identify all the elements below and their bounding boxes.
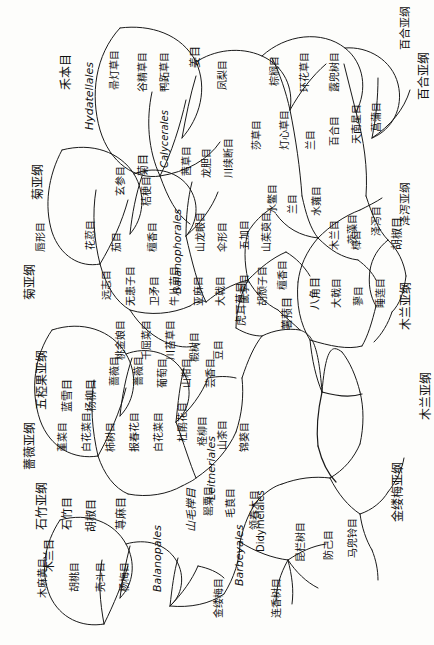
order-label-jiangmu: 姜目 xyxy=(190,46,201,68)
order-label-gujingcao: 谷精草目 xyxy=(138,52,148,92)
order-label-zhudengcao: 帚灯草目 xyxy=(110,50,120,90)
order-label-dujuanhua: 白花菜目 xyxy=(154,412,164,452)
order-label-hujiao2: 蓼目 xyxy=(354,286,364,306)
order-label-shuyu-yagang: 薯蓣目 xyxy=(282,297,293,330)
order-label-keidou: 杨梅目 xyxy=(120,562,130,592)
order-label-changpu: 菖蒲目 xyxy=(372,102,382,132)
order-label-doumu: 薔薇目 xyxy=(134,356,144,386)
order-label-yazhicao: 鸭跖草目 xyxy=(160,52,170,92)
order-label-shishu: 杜鹃花目 xyxy=(178,402,188,442)
order-label-qianqucai: 千屈菜目 xyxy=(142,320,152,360)
order-label-wuhuanzi: 无患子目 xyxy=(126,266,136,306)
order-label-hebenmu: 禾本目 xyxy=(60,54,72,90)
order-label-calycerales: Calycerales xyxy=(160,110,170,168)
order-label-dajimu: 大戟目 xyxy=(216,276,226,306)
order-label-taojinniang: 桃金娘目 xyxy=(116,320,126,360)
subclass-label-qiangwei-left: 薔薇亚纲 xyxy=(24,422,36,470)
order-label-bajiao: 樟目 xyxy=(352,230,362,250)
order-label-shizhumu: 胡椒目 xyxy=(86,499,97,532)
tree-branch-lines xyxy=(0,0,434,645)
order-label-duanshu: 杨柳目 xyxy=(86,379,97,412)
order-label-tanxiang2: 芸香目 xyxy=(206,358,216,388)
order-label-yama: 亚麻目 xyxy=(194,276,204,306)
order-label-yangmei: 胡桃目 xyxy=(70,562,80,592)
order-label-chuanxuduan: 川续断目 xyxy=(224,138,234,178)
order-label-mulanmu: 胡椒目 xyxy=(392,217,403,250)
order-label-hutuizi: 胡颓子目 xyxy=(258,266,268,306)
order-label-shuibie: 水鳖目 xyxy=(268,184,278,214)
order-label-lianxiangshu: 金缕梅目 xyxy=(214,578,224,618)
order-label-fangji: 罂粟目 xyxy=(204,486,214,516)
order-label-putaomu: 水蕹目 xyxy=(312,186,322,216)
order-label-chunxing: 唇形目 xyxy=(36,222,46,252)
order-label-huerчао: 虎耳草目 xyxy=(236,282,247,326)
order-label-tiannanxing: 天南星目 xyxy=(352,104,362,144)
order-label-shanlongyan: 山龙眼目 xyxy=(196,212,206,252)
order-label-xuanshen: 玄参目 xyxy=(116,166,126,196)
order-label-qiangwei: 豆目 xyxy=(214,340,224,360)
order-label-hutao: 荨麻目 xyxy=(116,497,127,530)
order-label-shuilian: 木兰目 xyxy=(330,220,340,250)
phylogenetic-tree-diagram: 禾本目 Hydatellales 帚灯草目 谷精草目 鸭跖草目 姜目 凤梨目 棕… xyxy=(0,0,434,645)
order-label-huerchu: 檀香目 xyxy=(278,260,288,290)
subclass-label-jinlumei: 金缕梅亚纲 xyxy=(392,462,404,522)
order-label-weimao: 卫矛目 xyxy=(150,276,160,306)
order-label-jiegeng: 桔梗目 xyxy=(142,176,152,206)
order-label-baochunhua: 柿树目 xyxy=(106,422,116,452)
order-label-shanka: 葡萄目 xyxy=(158,358,168,388)
order-label-yingsu: 毛茛目 xyxy=(226,488,236,518)
order-label-madouling: 防己目 xyxy=(324,530,334,560)
order-label-hydatellales: Hydatellales xyxy=(84,62,95,130)
order-label-qiemu: 茄目 xyxy=(112,232,122,252)
order-label-yunxiang: 山柑目 xyxy=(182,358,192,388)
order-label-qiuhaitang: 白花菜目 xyxy=(82,412,92,452)
subclass-label-baihe: 百合亚纲 xyxy=(400,6,411,50)
order-label-jumu: 菊目 xyxy=(138,154,149,176)
order-label-shanzhuyu: 山茱萸目 xyxy=(262,212,272,252)
order-label-baihuacai: 堇菜目 xyxy=(58,422,68,452)
order-label-dengxincao: 灯心草目 xyxy=(280,110,290,150)
order-label-huaren: 花荵目 xyxy=(86,220,96,250)
order-label-sanxing: 伞形目 xyxy=(218,222,228,252)
order-label-yuanzhi: 远志目 xyxy=(102,270,112,300)
order-label-didymelales: Barbeyales xyxy=(234,525,245,586)
order-label-zexie: 泽泻目 xyxy=(372,206,382,236)
order-label-zonglu: 棕榈目 xyxy=(270,56,280,86)
subclass-label-shizhu: 石竹亚纲 xyxy=(36,482,48,530)
order-label-maogen: 领春木目 xyxy=(250,490,260,530)
order-label-huanhuacao: 环花草目 xyxy=(300,52,310,92)
order-label-baihemu: 百合目 xyxy=(330,116,340,146)
order-label-leitneriales: 山毛榉目 xyxy=(186,488,197,532)
order-label-lanmu: 兰目 xyxy=(306,130,316,150)
order-label-yangliu: 蓝雪目 xyxy=(62,379,73,412)
order-label-hujiao: 马兜铃目 xyxy=(348,518,358,558)
order-label-jinkui: 山茶目 xyxy=(218,420,228,450)
order-label-niuermiao: 牛儿苗目 xyxy=(170,266,180,306)
subclass-label-ju: 菊亚纲 xyxy=(32,164,44,200)
order-label-yeyingmu: 兰目 xyxy=(288,194,298,214)
order-label-wujia: 五加目 xyxy=(240,220,250,250)
order-label-zhangmu: 睡莲目 xyxy=(376,278,386,308)
order-label-qianma: 锦葵目 xyxy=(240,422,250,452)
order-label-loudoushu: 露兜树目 xyxy=(330,52,340,92)
order-label-lingchunmu: 昆栏树目 xyxy=(296,522,306,562)
subclass-label-mulan-right: 木兰亚纲 xyxy=(420,372,432,420)
order-label-mumahuang: 壳斗目 xyxy=(96,562,106,592)
order-label-kunlanshu: 连香树目 xyxy=(272,578,282,618)
order-label-qiancao: 茜草目 xyxy=(182,146,192,176)
subclass-label-wuluan: 五椏果亚纲 xyxy=(36,350,48,410)
subclass-label-ju-left: 菊亚纲 xyxy=(24,264,36,300)
order-label-shanmaoju: 木麻黄目 xyxy=(38,558,48,598)
order-label-barbeyales: Balanopales xyxy=(152,525,163,592)
order-label-lanxue: 石竹目 xyxy=(62,497,73,530)
order-label-chengliu: 报春花目 xyxy=(130,412,140,452)
subclass-label-mulan: 木兰亚纲 xyxy=(400,282,412,330)
order-label-chuantaicao: 川苔草目 xyxy=(166,320,176,360)
order-label-maxianhao: 大戟目 xyxy=(332,278,342,308)
order-label-shacao: 莎草目 xyxy=(252,120,262,150)
order-label-longdan: 龙胆目 xyxy=(202,148,212,178)
subclass-label-baihe-right: 百合亚纲 xyxy=(418,52,430,100)
order-label-fenglimu: 凤梨目 xyxy=(218,60,228,90)
order-label-jincai: 蔷薇目 xyxy=(110,356,120,386)
order-label-tanxiang: 檀香目 xyxy=(148,222,158,252)
